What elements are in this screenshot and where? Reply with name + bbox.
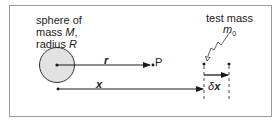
radius-symbol: R xyxy=(69,38,77,50)
test-mass-symbol: m0 xyxy=(223,23,236,40)
mass-suffix: , xyxy=(75,26,78,38)
point-p-label: P xyxy=(155,56,162,68)
point-p-dot xyxy=(152,64,155,67)
x-label: x xyxy=(96,78,102,90)
dx-var: x xyxy=(214,80,220,92)
mass-prefix: mass xyxy=(36,26,65,38)
displaced-dot xyxy=(228,63,231,66)
sphere-label-line2: mass M, xyxy=(36,26,82,38)
mass-symbol: M xyxy=(65,26,74,38)
m-symbol: m xyxy=(223,23,232,35)
test-mass-marker-icon xyxy=(206,57,211,62)
test-mass-dot xyxy=(203,63,206,66)
m-subscript: 0 xyxy=(232,30,236,37)
radius-prefix: radius xyxy=(36,38,69,50)
sphere-label-line1: sphere of xyxy=(36,14,82,26)
r-label: r xyxy=(104,54,108,66)
sphere-label-line3: radius R xyxy=(36,38,82,50)
dx-label: δx xyxy=(208,80,220,92)
sphere-label: sphere of mass M, radius R xyxy=(36,14,82,50)
